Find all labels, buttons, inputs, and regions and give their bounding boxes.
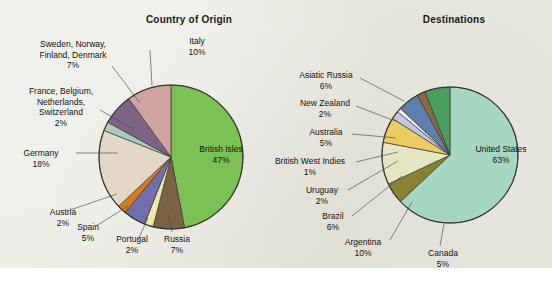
label-fbns-name-line1: France, Belgium,: [29, 86, 93, 96]
figure-root: Country of Origin Destinations Italy 10%…: [0, 0, 552, 287]
label-uruguay-name: Uruguay: [306, 185, 338, 195]
label-fbns-name-line3: Switzerland: [5, 107, 117, 118]
label-argentina-name: Argentina: [345, 237, 381, 247]
label-australia-pct: 5%: [295, 138, 357, 149]
label-france-belgium-netherlands-switzerland: France, Belgium, Netherlands, Switzerlan…: [5, 86, 117, 128]
label-scandinavia-name-line1: Sweden, Norway,: [40, 39, 106, 49]
label-canada: Canada 5%: [416, 248, 470, 269]
label-italy: Italy 10%: [164, 36, 230, 57]
label-germany-pct: 18%: [8, 159, 74, 170]
label-british-west-indies: British West Indies 1%: [258, 156, 362, 177]
label-leader-line: [150, 50, 152, 86]
label-asiatic-russia-pct: 6%: [285, 81, 367, 92]
label-british-isles-pct: 47%: [185, 155, 257, 166]
label-uruguay: Uruguay 2%: [291, 185, 353, 206]
label-fbns-name-line2: Netherlands,: [5, 97, 117, 108]
label-united-states-name: United States: [475, 144, 526, 154]
label-scandinavia: Sweden, Norway, Finland, Denmark 7%: [18, 39, 128, 71]
label-leader-line: [440, 224, 444, 246]
label-spain-name: Spain: [77, 222, 99, 232]
label-british-west-indies-pct: 1%: [258, 167, 362, 178]
label-british-isles-name: British Isles: [199, 144, 242, 154]
label-russia: Russia 7%: [152, 234, 202, 255]
label-asiatic-russia: Asiatic Russia 6%: [285, 70, 367, 91]
label-austria-name: Austria: [50, 207, 76, 217]
label-argentina-pct: 10%: [332, 248, 394, 259]
label-russia-pct: 7%: [152, 245, 202, 256]
label-australia: Australia 5%: [295, 127, 357, 148]
label-british-isles: British Isles 47%: [185, 144, 257, 165]
label-russia-name: Russia: [164, 234, 190, 244]
label-scandinavia-pct: 7%: [18, 60, 128, 71]
label-leader-line: [390, 202, 412, 240]
label-germany: Germany 18%: [8, 148, 74, 169]
label-new-zealand: New Zealand 2%: [287, 98, 363, 119]
label-portugal-name: Portugal: [116, 234, 148, 244]
label-brazil-pct: 6%: [308, 222, 358, 233]
label-united-states: United States 63%: [462, 144, 540, 165]
label-asiatic-russia-name: Asiatic Russia: [299, 70, 352, 80]
label-italy-pct: 10%: [164, 47, 230, 58]
label-new-zealand-pct: 2%: [287, 109, 363, 120]
label-scandinavia-name-line2: Finland, Denmark: [18, 50, 128, 61]
label-uruguay-pct: 2%: [291, 196, 353, 207]
label-fbns-pct: 2%: [5, 118, 117, 129]
label-leader-line: [352, 176, 402, 216]
label-italy-name: Italy: [189, 36, 205, 46]
label-brazil-name: Brazil: [322, 211, 343, 221]
label-canada-name: Canada: [428, 248, 458, 258]
label-australia-name: Australia: [309, 127, 342, 137]
label-british-west-indies-name: British West Indies: [275, 156, 345, 166]
label-germany-name: Germany: [24, 148, 59, 158]
label-argentina: Argentina 10%: [332, 237, 394, 258]
label-canada-pct: 5%: [416, 259, 470, 270]
label-brazil: Brazil 6%: [308, 211, 358, 232]
label-united-states-pct: 63%: [462, 155, 540, 166]
label-new-zealand-name: New Zealand: [300, 98, 350, 108]
